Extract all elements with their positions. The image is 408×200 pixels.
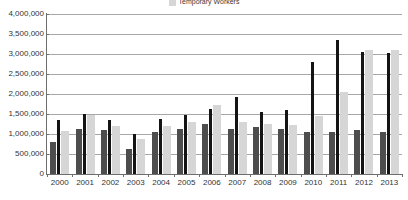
x-axis-tick-label: 2003 bbox=[123, 178, 148, 192]
bar bbox=[152, 132, 158, 174]
bar-group bbox=[301, 14, 326, 174]
x-axis-tick-label: 2011 bbox=[326, 178, 351, 192]
bar-group bbox=[98, 14, 123, 174]
y-axis-tick-label: 1,000,000 bbox=[0, 130, 44, 138]
bar bbox=[184, 115, 187, 174]
bar bbox=[380, 132, 386, 174]
bar bbox=[159, 119, 162, 174]
x-axis-tick-label: 2013 bbox=[377, 178, 402, 192]
bar-group bbox=[225, 14, 250, 174]
y-axis-tick-label: 3,500,000 bbox=[0, 30, 44, 38]
bar bbox=[137, 139, 145, 174]
bar-group bbox=[275, 14, 300, 174]
y-axis-tick-label: 1,500,000 bbox=[0, 110, 44, 118]
bar bbox=[315, 116, 323, 174]
legend-label-temporary-workers: Temporary Workers bbox=[179, 0, 240, 6]
bar bbox=[340, 92, 348, 174]
y-axis-tickmark bbox=[46, 154, 49, 155]
bar bbox=[213, 105, 221, 174]
y-axis-tick-label: 2,500,000 bbox=[0, 70, 44, 78]
y-axis-tick-label: 4,000,000 bbox=[0, 10, 44, 18]
bar-group bbox=[72, 14, 97, 174]
x-axis-tickmark bbox=[72, 174, 73, 177]
bar bbox=[329, 132, 335, 174]
bar bbox=[108, 120, 111, 174]
bar bbox=[311, 62, 314, 174]
bar-group bbox=[351, 14, 376, 174]
bar bbox=[50, 142, 56, 174]
bar-group bbox=[174, 14, 199, 174]
bar bbox=[177, 129, 183, 174]
x-axis-tickmark bbox=[326, 174, 327, 177]
y-axis-tick-label: 2,000,000 bbox=[0, 90, 44, 98]
x-axis-tick-label: 2005 bbox=[174, 178, 199, 192]
legend-swatch-temporary-workers bbox=[169, 0, 176, 6]
x-axis-tickmark bbox=[351, 174, 352, 177]
bar bbox=[304, 132, 310, 174]
y-axis-tickmark bbox=[46, 34, 49, 35]
bar bbox=[391, 50, 399, 174]
x-axis-tickmark bbox=[377, 174, 378, 177]
y-axis-tickmark bbox=[46, 134, 49, 135]
x-axis-tickmark bbox=[275, 174, 276, 177]
x-axis-tick-label: 2007 bbox=[225, 178, 250, 192]
bar bbox=[112, 126, 120, 174]
x-axis-tickmark bbox=[98, 174, 99, 177]
plot-area bbox=[47, 14, 402, 174]
y-axis-tick-label: 500,000 bbox=[0, 150, 44, 158]
bar bbox=[361, 52, 364, 174]
x-axis-labels: 2000200120022003200420052006200720082009… bbox=[47, 178, 402, 192]
x-axis-tickmark bbox=[250, 174, 251, 177]
y-axis-tick-label: 3,000,000 bbox=[0, 50, 44, 58]
bar bbox=[202, 124, 208, 174]
bar bbox=[76, 129, 82, 174]
bar bbox=[365, 50, 373, 174]
bar bbox=[239, 122, 247, 174]
bar bbox=[228, 129, 234, 174]
bar-group bbox=[199, 14, 224, 174]
x-axis-tick-label: 2012 bbox=[351, 178, 376, 192]
x-axis-tickmark bbox=[301, 174, 302, 177]
bar bbox=[336, 40, 339, 174]
bar bbox=[260, 112, 263, 174]
x-axis-tick-label: 2006 bbox=[199, 178, 224, 192]
bar-groups bbox=[47, 14, 402, 174]
bar-group bbox=[47, 14, 72, 174]
bar-group bbox=[326, 14, 351, 174]
y-axis-tick-label: 0 bbox=[0, 170, 44, 178]
bar bbox=[354, 130, 360, 174]
x-axis-tickmark bbox=[174, 174, 175, 177]
x-axis-tickmark bbox=[123, 174, 124, 177]
x-axis-tickmark bbox=[199, 174, 200, 177]
y-axis-tickmark bbox=[46, 174, 49, 175]
bar bbox=[57, 120, 60, 174]
y-axis-tickmark bbox=[46, 74, 49, 75]
x-axis-tick-label: 2008 bbox=[250, 178, 275, 192]
bar-group bbox=[250, 14, 275, 174]
bar bbox=[163, 126, 171, 174]
bar bbox=[264, 124, 272, 174]
bar bbox=[289, 125, 297, 174]
bar bbox=[101, 130, 107, 174]
x-axis-tick-label: 2004 bbox=[148, 178, 173, 192]
bar bbox=[285, 110, 288, 174]
bar-group bbox=[123, 14, 148, 174]
y-axis-tickmark bbox=[46, 14, 49, 15]
bar bbox=[126, 149, 132, 174]
bar bbox=[278, 129, 284, 174]
bar bbox=[387, 53, 390, 174]
y-axis-tickmark bbox=[46, 54, 49, 55]
x-axis-tick-label: 2010 bbox=[301, 178, 326, 192]
bar bbox=[209, 109, 212, 174]
bar bbox=[235, 97, 238, 174]
x-axis-tickmark bbox=[225, 174, 226, 177]
bar bbox=[87, 115, 95, 174]
bar-chart: Temporary Workers 4,000,0003,500,0003,00… bbox=[0, 0, 408, 200]
x-axis-tick-label: 2001 bbox=[72, 178, 97, 192]
y-axis-tickmark bbox=[46, 114, 49, 115]
chart-legend: Temporary Workers bbox=[0, 0, 408, 8]
bar bbox=[188, 122, 196, 174]
y-axis-tickmark bbox=[46, 94, 49, 95]
bar bbox=[253, 127, 259, 174]
y-axis-labels: 4,000,0003,500,0003,000,0002,500,0002,00… bbox=[0, 14, 44, 174]
